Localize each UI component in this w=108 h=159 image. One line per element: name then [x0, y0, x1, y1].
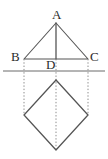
vertex-label-d: D [46, 58, 55, 71]
figure-canvas [0, 0, 108, 159]
vertex-label-b: B [11, 50, 20, 63]
vertex-label-c: C [90, 50, 99, 63]
geometry-figure: A B C D [0, 0, 108, 159]
vertex-label-a: A [52, 8, 61, 21]
